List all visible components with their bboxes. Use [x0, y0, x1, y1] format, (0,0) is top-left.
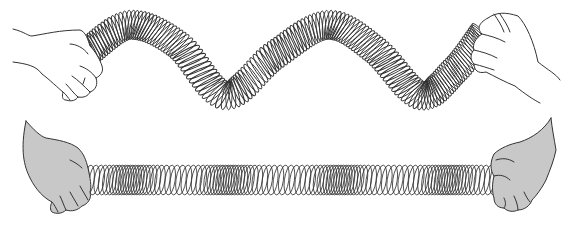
coil-loop	[308, 164, 322, 195]
coil-loop	[169, 39, 198, 60]
longitudinal-wave-spring	[71, 164, 502, 195]
diagram-canvas	[0, 0, 573, 229]
coil-loop	[278, 31, 296, 61]
bottom-right-hand	[491, 118, 556, 211]
slinky-wave-diagram	[0, 0, 573, 229]
coil-loop	[352, 164, 366, 195]
top-right-hand	[471, 13, 560, 103]
coil-loop	[275, 34, 293, 64]
coil-loop	[202, 164, 216, 195]
coil-loop	[105, 164, 119, 195]
coil-loop	[272, 36, 290, 66]
bottom-left-hand	[23, 121, 91, 213]
coil-loop	[281, 29, 299, 59]
transverse-wave-spring	[80, 10, 495, 111]
coil-loop	[182, 59, 212, 77]
